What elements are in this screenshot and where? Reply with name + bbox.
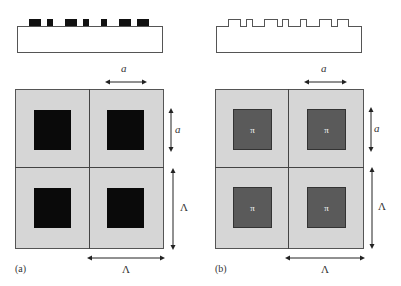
phase-square-element: π [233,187,272,228]
profile-bump [119,19,131,26]
dimension-label-a: a [121,62,127,74]
square-element [107,110,144,150]
dimension-arrow-a-horizontal [304,78,347,86]
dimension-arrow-period-vertical [368,167,376,249]
dimension-arrow-a-horizontal [105,78,147,86]
substrate-profile-b [216,26,362,53]
dimension-label-period: Λ [321,263,329,275]
panel-label: (a) [15,263,26,274]
pi-phase-symbol: π [324,203,329,213]
dimension-label-a: a [175,123,181,135]
profile-bump [282,19,289,27]
profile-bump [137,19,149,26]
profile-bump [228,19,241,27]
square-element [34,110,71,150]
grid-divider-vertical [89,89,90,249]
grid-divider-horizontal [215,167,364,168]
pi-phase-symbol: π [250,125,255,135]
profile-bump [300,19,307,27]
profile-bump [29,19,41,26]
pi-phase-symbol: π [250,203,255,213]
dimension-label-a: a [321,62,327,74]
square-element [107,188,144,228]
dimension-arrow-period-vertical [169,168,177,250]
dimension-label-period: Λ [122,263,130,275]
phase-square-element: π [307,187,346,228]
square-element [34,188,71,228]
profile-bump [337,19,349,27]
phase-square-element: π [307,109,346,150]
pi-phase-symbol: π [324,125,329,135]
phase-square-element: π [233,109,272,150]
dimension-arrow-a-vertical [167,108,175,152]
profile-bump [47,19,53,26]
panel-label: (b) [215,263,227,274]
profile-bump [264,19,278,27]
grid-divider-horizontal [15,167,164,168]
profile-bump [101,19,107,26]
dimension-label-period: Λ [180,201,188,213]
profile-bump [246,19,253,27]
dimension-label-period: Λ [378,200,386,212]
grid-divider-vertical [288,89,289,249]
dimension-label-a: a [374,122,380,134]
profile-bump [65,19,77,26]
dimension-arrow-period-horizontal [87,254,165,262]
substrate-profile-a [17,26,163,53]
dimension-arrow-period-horizontal [285,254,365,262]
profile-bump [319,19,332,27]
profile-bump [83,19,89,26]
